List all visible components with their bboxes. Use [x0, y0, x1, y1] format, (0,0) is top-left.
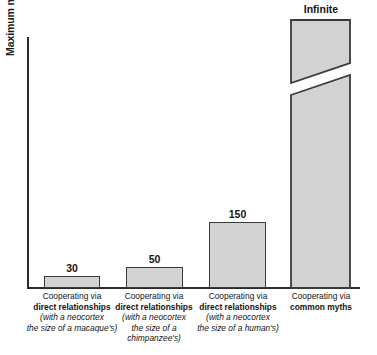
category-label-2-line-2: (with a neocortex — [186, 312, 290, 323]
category-label-3: Cooperating via common myths — [268, 291, 374, 312]
category-label-1-line-4: chimpanzee's) — [102, 333, 206, 344]
category-label-2-line-3: the size of a human's) — [186, 323, 290, 334]
plot-area: 30 50 150 Infinite — [0, 0, 377, 289]
bar-chart: Maximum number of cooperating individual… — [0, 0, 377, 355]
category-label-3-line-0: Cooperating via — [268, 291, 374, 302]
bar-value-label-3: Infinite — [291, 3, 351, 15]
x-axis-category-labels: Cooperating via direct relationships (wi… — [0, 291, 377, 355]
bar-1 — [126, 267, 183, 288]
bar-2 — [209, 222, 266, 288]
bar-3-lower-segment — [291, 75, 350, 288]
bar-3-broken — [288, 17, 354, 291]
bar-3-upper-segment — [291, 20, 350, 83]
bar-value-label-0: 30 — [44, 262, 100, 274]
bar-0 — [44, 276, 100, 288]
category-label-3-line-1: common myths — [268, 302, 374, 313]
bar-value-label-2: 150 — [209, 208, 266, 220]
bar-value-label-1: 50 — [126, 253, 183, 265]
